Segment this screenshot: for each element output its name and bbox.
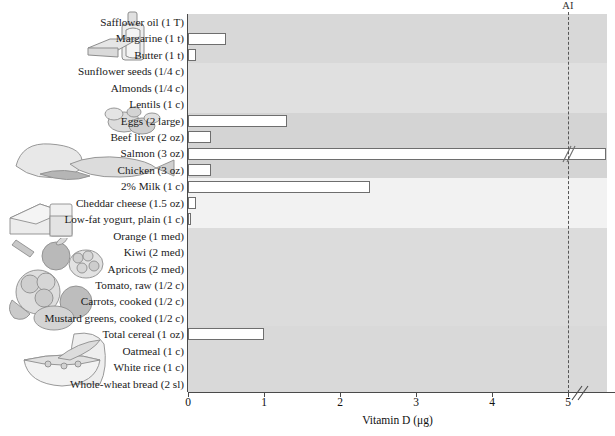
x-tick-label: 3	[413, 396, 419, 408]
category-label: Margarine (1 t)	[116, 30, 184, 46]
category-label: Almonds (1/4 c)	[111, 80, 184, 96]
category-label: Cheddar cheese (1.5 oz)	[76, 195, 184, 211]
category-label: 2% Milk (1 c)	[121, 178, 184, 194]
category-label: Kiwi (2 med)	[124, 244, 184, 260]
category-label: Low-fat yogurt, plain (1 c)	[64, 211, 184, 227]
x-tick-label: 1	[261, 396, 267, 408]
category-labels: Safflower oil (1 T)Margarine (1 t)Butter…	[0, 14, 186, 392]
x-axis-title: Vitamin D (μg)	[188, 414, 607, 426]
category-label: Salmon (3 oz)	[121, 145, 184, 161]
x-tick-label: 2	[337, 396, 343, 408]
plot-area	[188, 14, 607, 392]
category-label: Apricots (2 med)	[108, 261, 184, 277]
category-label: Whole-wheat bread (2 sl)	[70, 376, 184, 392]
x-tick-label: 4	[489, 396, 495, 408]
x-axis	[188, 392, 615, 393]
category-label: Beef liver (2 oz)	[110, 129, 184, 145]
x-tick-label: 5	[565, 396, 571, 408]
bar-chicken-3-oz	[188, 164, 211, 176]
chart-row	[188, 376, 607, 397]
bar-beef-liver-2-oz	[188, 131, 211, 143]
category-label: Lentils (1 c)	[129, 96, 184, 112]
category-label: Carrots, cooked (1/2 c)	[81, 293, 184, 309]
category-label: White rice (1 c)	[113, 359, 184, 375]
bar-2-milk-1-c	[188, 181, 370, 193]
bar-eggs-2-large	[188, 115, 287, 127]
bar-low-fat-yogurt-plain-1-c	[188, 213, 191, 225]
category-label: Sunflower seeds (1/4 c)	[78, 63, 184, 79]
ai-reference-line	[568, 12, 569, 393]
category-label: Tomato, raw (1/2 c)	[95, 277, 184, 293]
category-label: Butter (1 t)	[134, 47, 184, 63]
category-label: Total cereal (1 oz)	[102, 326, 184, 342]
category-label: Safflower oil (1 T)	[100, 14, 184, 30]
category-label: Eggs (2 large)	[121, 113, 184, 129]
x-tick-label: 0	[185, 396, 191, 408]
vitamin-d-bar-chart: Safflower oil (1 T)Margarine (1 t)Butter…	[0, 0, 615, 436]
ai-reference-label: AI	[562, 0, 574, 11]
bar-cheddar-cheese-1-5-oz	[188, 197, 196, 209]
bar-margarine-1-t	[188, 33, 226, 45]
bar-salmon-3-oz	[188, 148, 606, 160]
category-label: Orange (1 med)	[113, 228, 184, 244]
category-label: Mustard greens, cooked (1/2 c)	[45, 310, 185, 326]
category-label: Chicken (3 oz)	[118, 162, 184, 178]
y-axis	[187, 14, 188, 392]
bar-total-cereal-1-oz	[188, 328, 264, 340]
category-label: Oatmeal (1 c)	[123, 343, 185, 359]
bar-butter-1-t	[188, 49, 196, 61]
